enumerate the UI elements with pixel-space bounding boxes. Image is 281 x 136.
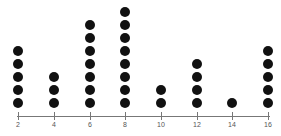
x-tick — [161, 112, 162, 120]
x-tick — [197, 112, 198, 120]
data-dot — [263, 72, 273, 82]
data-dot — [120, 85, 130, 95]
data-dot — [192, 59, 202, 69]
x-tick-label: 16 — [258, 121, 278, 128]
x-tick — [268, 112, 269, 120]
x-tick-label: 14 — [222, 121, 242, 128]
x-tick-label: 8 — [115, 121, 135, 128]
data-dot — [263, 46, 273, 56]
x-tick — [90, 112, 91, 120]
data-dot — [13, 59, 23, 69]
data-dot — [156, 85, 166, 95]
data-dot — [49, 85, 59, 95]
x-tick-label: 10 — [151, 121, 171, 128]
data-dot — [49, 98, 59, 108]
dot-plot: 246810121416 — [0, 0, 281, 136]
x-tick — [18, 112, 19, 120]
data-dot — [85, 33, 95, 43]
x-tick-label: 4 — [44, 121, 64, 128]
data-dot — [49, 72, 59, 82]
data-dot — [120, 7, 130, 17]
data-dot — [13, 98, 23, 108]
x-tick-label: 12 — [187, 121, 207, 128]
data-dot — [120, 46, 130, 56]
x-tick-label: 6 — [80, 121, 100, 128]
data-dot — [156, 98, 166, 108]
data-dot — [227, 98, 237, 108]
data-dot — [85, 59, 95, 69]
data-dot — [120, 20, 130, 30]
data-dot — [13, 46, 23, 56]
data-dot — [85, 20, 95, 30]
x-tick — [125, 112, 126, 120]
data-dot — [192, 85, 202, 95]
x-tick — [232, 112, 233, 120]
data-dot — [120, 33, 130, 43]
x-tick-label: 2 — [8, 121, 28, 128]
data-dot — [85, 98, 95, 108]
data-dot — [85, 85, 95, 95]
data-dot — [85, 46, 95, 56]
data-dot — [263, 59, 273, 69]
data-dot — [85, 72, 95, 82]
x-tick — [54, 112, 55, 120]
data-dot — [13, 72, 23, 82]
data-dot — [120, 98, 130, 108]
data-dot — [192, 98, 202, 108]
data-dot — [120, 72, 130, 82]
data-dot — [192, 72, 202, 82]
data-dot — [263, 98, 273, 108]
data-dot — [120, 59, 130, 69]
data-dot — [263, 85, 273, 95]
data-dot — [13, 85, 23, 95]
